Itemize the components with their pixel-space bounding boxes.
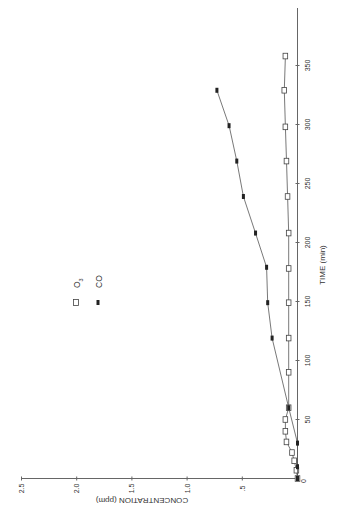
- filled-star-marker-icon: [254, 231, 257, 236]
- concentration-tick-label: 2.5: [18, 484, 25, 494]
- open-square-marker-icon: [286, 370, 291, 376]
- data-series: [215, 53, 299, 481]
- concentration-tick-label: 2.0: [73, 484, 80, 494]
- time-tick-label: 50: [304, 416, 311, 424]
- open-square-marker-icon: [284, 158, 289, 164]
- open-square-marker-icon: [282, 87, 287, 93]
- concentration-tick-label: 1.0: [184, 484, 191, 494]
- open-square-marker-icon: [285, 194, 290, 200]
- time-tick-label: 250: [304, 178, 311, 190]
- time-axis-label: TIME (min): [318, 245, 327, 285]
- open-square-marker-icon: [283, 124, 288, 130]
- concentration-axis-label: CONCENTRATION (ppm): [96, 496, 189, 505]
- open-square-marker-icon: [284, 439, 289, 445]
- legend-label-co: CO: [94, 275, 104, 288]
- open-square-marker-icon: [286, 230, 291, 236]
- rotated-line-chart: 50100150200250300350 TIME (min) 0.51.01.…: [0, 0, 340, 516]
- filled-star-marker-icon: [265, 265, 268, 270]
- open-square-marker-icon: [286, 335, 291, 341]
- open-square-marker-icon: [286, 266, 291, 272]
- open-square-marker-icon: [292, 458, 297, 464]
- filled-star-marker-icon: [228, 123, 231, 128]
- time-tick-label: 300: [304, 119, 311, 131]
- open-square-marker-icon: [283, 53, 288, 59]
- open-square-marker-icon: [283, 429, 288, 435]
- filled-star-marker-icon: [235, 159, 238, 164]
- time-tick-label: 100: [304, 355, 311, 367]
- filled-star-marker-icon: [271, 336, 274, 341]
- filled-star-marker-icon: [287, 405, 290, 410]
- time-tick-label: 150: [304, 296, 311, 308]
- filled-star-marker-icon: [296, 464, 299, 469]
- concentration-tick-label: .5: [239, 485, 246, 491]
- filled-star-marker-icon: [97, 300, 100, 305]
- legend-label-o3: O3: [72, 278, 84, 288]
- open-square-marker-icon: [290, 450, 295, 456]
- time-tick-label: 350: [304, 60, 311, 72]
- filled-star-marker-icon: [296, 441, 299, 446]
- concentration-axis-ticks: 0.51.01.52.02.5: [18, 477, 307, 494]
- time-tick-label: 200: [304, 237, 311, 249]
- concentration-tick-label: 1.5: [128, 484, 135, 494]
- concentration-tick-label: 0: [300, 479, 307, 483]
- filled-star-marker-icon: [215, 88, 218, 93]
- open-square-marker-icon: [74, 300, 79, 306]
- open-square-marker-icon: [283, 417, 288, 423]
- open-square-marker-icon: [286, 300, 291, 306]
- legend: O3 CO: [72, 275, 104, 306]
- filled-star-marker-icon: [296, 476, 299, 481]
- legend-item-co: CO: [94, 275, 104, 305]
- filled-star-marker-icon: [266, 300, 269, 305]
- legend-item-o3: O3: [72, 278, 84, 305]
- filled-star-marker-icon: [242, 194, 245, 199]
